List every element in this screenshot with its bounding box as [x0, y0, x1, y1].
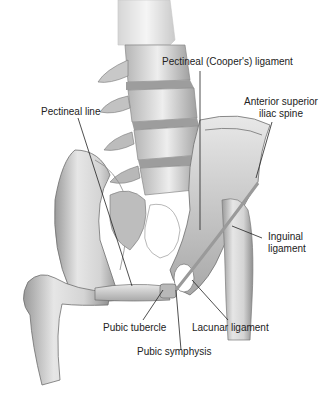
label-inguinal-ligament: Inguinal ligament	[268, 231, 306, 255]
label-anterior-superior-iliac-spine: Anterior superior iliac spine	[236, 96, 326, 120]
label-pubic-tubercle: Pubic tubercle	[103, 322, 166, 334]
leader-pubic-symphysis	[176, 290, 181, 350]
label-pubic-symphysis: Pubic symphysis	[137, 346, 211, 358]
pubic-rami	[95, 284, 176, 301]
lumbar-spine	[98, 0, 200, 195]
leader-lacunar-ligament	[192, 280, 228, 320]
label-inguinal-line1: Inguinal	[268, 231, 306, 243]
label-inguinal-line2: ligament	[268, 243, 306, 255]
label-pectineal-ligament: Pectineal (Cooper's) ligament	[162, 56, 293, 68]
label-lacunar-ligament: Lacunar ligament	[192, 322, 269, 334]
label-asis-line1: Anterior superior	[236, 96, 326, 108]
label-pectineal-line: Pectineal line	[41, 106, 100, 118]
label-asis-line2: iliac spine	[236, 108, 326, 120]
anatomy-figure: Pectineal (Cooper's) ligament Pectineal …	[0, 0, 331, 404]
